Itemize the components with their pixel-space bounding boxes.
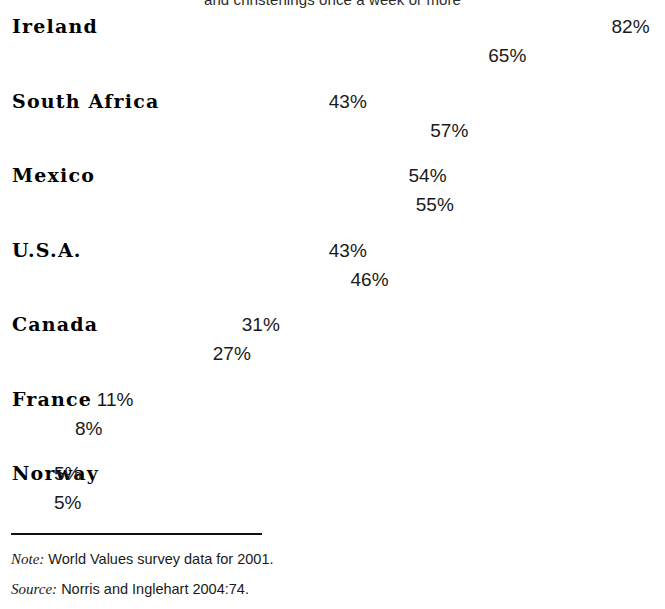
- country-label: South Africa: [12, 86, 160, 117]
- series-tag-2001: 2001: [424, 42, 464, 70]
- value-label-1981: 11%: [97, 384, 134, 415]
- bar-2001[interactable]: [11, 266, 345, 294]
- value-label-1981: 43%: [329, 86, 367, 117]
- bar-2001[interactable]: [11, 191, 410, 219]
- bar-chart-plot: Ireland82%65%19812001South Africa43%57%M…: [0, 0, 665, 525]
- footer-divider: [11, 533, 262, 535]
- value-label-2001: 55%: [416, 191, 454, 219]
- bar-2001[interactable]: [11, 42, 482, 70]
- value-label-1981: 5%: [54, 458, 81, 489]
- bar-1981[interactable]: [11, 11, 606, 42]
- value-label-1981: 31%: [242, 309, 280, 340]
- country-label: Mexico: [12, 160, 95, 191]
- value-label-2001: 57%: [430, 117, 468, 145]
- note-footnote: Note: World Values survey data for 2001.: [11, 551, 274, 568]
- bar-group: Mexico54%55%: [0, 160, 665, 219]
- bar-group: Norway5%5%: [0, 458, 665, 517]
- value-label-1981: 43%: [329, 235, 367, 266]
- note-text: World Values survey data for 2001.: [48, 551, 273, 567]
- value-label-2001: 27%: [213, 340, 251, 368]
- bar-group: France11%8%: [0, 384, 665, 443]
- value-label-2001: 8%: [75, 415, 102, 443]
- country-label: Ireland: [12, 11, 98, 42]
- bar-group: Ireland82%65%19812001: [0, 11, 665, 70]
- source-footnote: Source: Norris and Inglehart 2004:74.: [11, 581, 249, 598]
- note-label: Note:: [11, 551, 44, 567]
- value-label-1981: 54%: [409, 160, 447, 191]
- country-label: U.S.A.: [12, 235, 82, 266]
- country-label: Canada: [12, 309, 98, 340]
- bar-2001[interactable]: [11, 489, 48, 517]
- bar-2001[interactable]: [11, 415, 69, 443]
- bar-group: U.S.A.43%46%: [0, 235, 665, 294]
- bar-2001[interactable]: [11, 340, 207, 368]
- value-label-2001: 46%: [351, 266, 389, 294]
- source-text: Norris and Inglehart 2004:74.: [61, 581, 249, 597]
- bar-group: Canada31%27%: [0, 309, 665, 368]
- value-label-2001: 65%: [488, 42, 526, 70]
- bar-group: South Africa43%57%: [0, 86, 665, 145]
- bar-2001[interactable]: [11, 117, 424, 145]
- source-label: Source:: [11, 581, 57, 597]
- value-label-2001: 5%: [54, 489, 81, 517]
- series-tag-1981: 1981: [546, 11, 586, 42]
- country-label: France: [12, 384, 92, 415]
- value-label-1981: 82%: [612, 11, 650, 42]
